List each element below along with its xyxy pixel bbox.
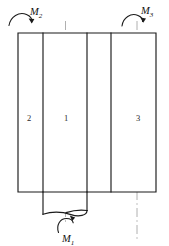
m3-arrow-curve bbox=[122, 15, 143, 26]
m3-arrow-head bbox=[140, 18, 146, 23]
shaft-assembly bbox=[18, 33, 156, 216]
m3-label: M3 bbox=[140, 5, 154, 19]
figure-canvas: M2 M3 M1 2 1 3 bbox=[0, 0, 169, 246]
moment-arrow-m3: M3 bbox=[122, 5, 154, 26]
segment-label-2: 2 bbox=[27, 113, 31, 123]
m1-label: M1 bbox=[61, 233, 74, 246]
m2-arrow-head bbox=[29, 19, 35, 24]
segment-label-3: 3 bbox=[136, 113, 140, 123]
moment-arrow-m1: M1 bbox=[58, 216, 75, 246]
m1-arrow-head bbox=[70, 216, 75, 221]
center-shaft-fill bbox=[43, 33, 87, 216]
segment-label-1: 1 bbox=[64, 113, 68, 123]
torsion-shaft-diagram: M2 M3 M1 2 1 3 bbox=[0, 0, 169, 246]
moment-arrow-m2: M2 bbox=[9, 6, 43, 26]
m2-arrow-curve bbox=[9, 14, 32, 26]
